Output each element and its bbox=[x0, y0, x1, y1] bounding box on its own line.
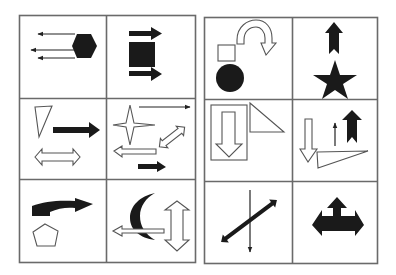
star-icon bbox=[313, 60, 357, 99]
thick-right-arrow-icon bbox=[138, 161, 166, 172]
diagonal-double-arrow-outline-icon bbox=[156, 122, 189, 151]
right-triangle-outline-icon bbox=[250, 103, 284, 132]
double-vertical-arrow-outline-icon bbox=[165, 201, 189, 251]
cell-left-r2c2 bbox=[113, 105, 190, 172]
puzzle-figure bbox=[0, 0, 396, 275]
pentagon-outline-icon bbox=[33, 224, 58, 246]
obtuse-triangle-outline-icon bbox=[317, 151, 368, 168]
cell-left-r3c1 bbox=[32, 198, 93, 246]
thick-up-arrow-icon bbox=[342, 110, 362, 143]
left-arrow-outline-icon bbox=[114, 146, 156, 157]
cell-left-r2c1 bbox=[35, 106, 100, 165]
cell-right-r1c2 bbox=[313, 22, 357, 99]
three-way-arrow-icon bbox=[312, 197, 364, 236]
cell-right-r1c1 bbox=[216, 20, 276, 92]
cell-left-r1c2 bbox=[129, 27, 162, 81]
circle-icon bbox=[216, 64, 244, 92]
double-horizontal-arrow-outline-icon bbox=[35, 149, 80, 165]
hexagon-icon bbox=[72, 34, 97, 58]
cell-right-r2c1 bbox=[211, 103, 284, 160]
curved-right-arrow-icon bbox=[32, 198, 93, 216]
thick-right-arrow-icon bbox=[53, 122, 100, 138]
square-outline-icon bbox=[218, 45, 235, 61]
cell-left-r1c1 bbox=[31, 34, 97, 58]
triangle-outline-icon bbox=[35, 106, 52, 137]
cell-right-r2c2 bbox=[300, 110, 368, 168]
cell-left-r3c2 bbox=[113, 193, 189, 251]
diagonal-double-arrow-icon bbox=[218, 196, 280, 246]
u-turn-arrow-outline-icon bbox=[237, 20, 276, 55]
four-point-star-outline-icon bbox=[113, 105, 155, 145]
left-grid bbox=[19, 15, 196, 263]
cell-right-r3c2 bbox=[312, 197, 364, 236]
right-grid bbox=[204, 17, 378, 264]
cell-right-r3c1 bbox=[218, 190, 280, 252]
thick-up-arrow-icon bbox=[325, 22, 343, 54]
down-arrow-outline-icon bbox=[300, 119, 317, 162]
thick-right-arrow-icon bbox=[129, 67, 162, 81]
thick-right-arrow-icon bbox=[129, 27, 162, 40]
square-icon bbox=[129, 42, 155, 67]
